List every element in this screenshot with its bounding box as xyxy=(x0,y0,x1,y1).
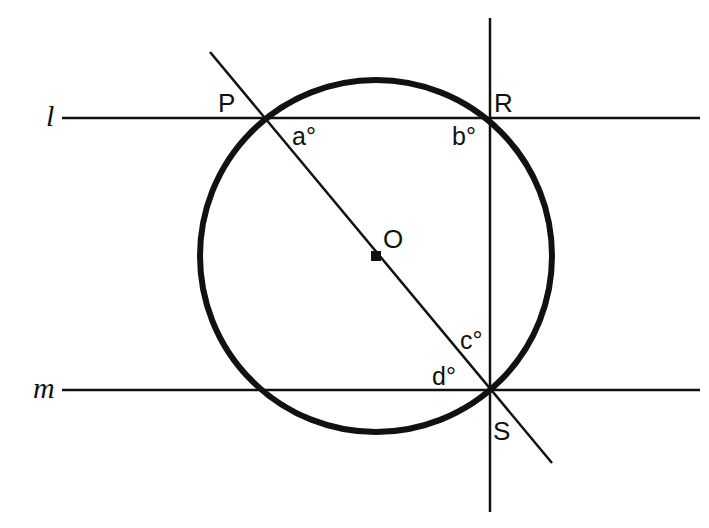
angle-label-a: a° xyxy=(292,122,316,150)
point-label-O: O xyxy=(383,224,403,254)
point-label-R: R xyxy=(494,88,513,118)
line-m-label: m xyxy=(33,371,55,404)
geometry-diagram: l m P R O S a° b° c° d° xyxy=(0,0,709,528)
angle-label-d: d° xyxy=(432,362,456,390)
angle-label-b: b° xyxy=(452,122,476,150)
point-label-P: P xyxy=(218,88,235,118)
point-label-S: S xyxy=(493,416,510,446)
angle-label-c: c° xyxy=(460,326,483,354)
figure-svg: l m P R O S a° b° c° d° xyxy=(0,0,709,528)
center-point-dot xyxy=(371,251,381,261)
line-l-label: l xyxy=(46,99,54,132)
